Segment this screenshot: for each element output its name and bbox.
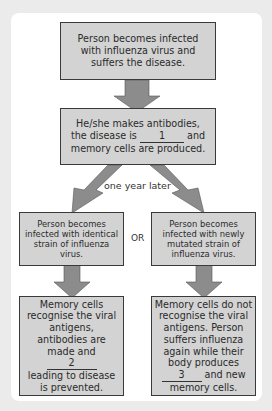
infection-text: Person becomes infected with influenza v… <box>69 33 207 68</box>
antibodies-box: He/she makes antibodies, the disease is … <box>60 108 216 165</box>
recognise-box: Memory cells recognise the viral antigen… <box>19 296 124 396</box>
arrow-down-right-icon <box>186 265 222 298</box>
time-label: one year later <box>104 180 171 191</box>
blank-1: 1 <box>140 130 184 143</box>
infection-box: Person becomes infected with influenza v… <box>60 22 216 80</box>
antibodies-text: He/she makes antibodies, the disease is … <box>67 118 209 154</box>
or-label: OR <box>131 233 144 243</box>
not-recognise-box: Memory cells do not recognise the viral … <box>151 296 256 396</box>
identical-strain-box: Person becomes infected with identical s… <box>19 212 124 266</box>
mutated-strain-box: Person becomes infected with newly mutat… <box>151 212 256 266</box>
blank-3: 3 <box>162 369 202 382</box>
arrow-down-left-icon <box>54 265 90 298</box>
blank-2: 2 <box>47 357 97 370</box>
